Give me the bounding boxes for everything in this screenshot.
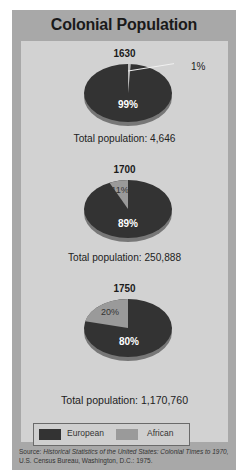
chart-panel: 1630 99% 1% Total population: 4,646 1700… bbox=[21, 41, 228, 442]
pie-chart-1750: 20% 80% bbox=[82, 296, 174, 362]
total-population-1630: Total population: 4,646 bbox=[29, 132, 219, 144]
legend-label-african: African bbox=[147, 428, 173, 438]
legend: European African bbox=[33, 423, 190, 446]
african-pct-1750: 20% bbox=[101, 307, 119, 317]
year-label-1630: 1630 bbox=[31, 47, 217, 59]
legend-swatch-african bbox=[116, 429, 138, 440]
european-pct-1630: 99% bbox=[118, 99, 138, 110]
african-pct-1700: 11% bbox=[111, 185, 128, 195]
year-label-1700: 1700 bbox=[31, 163, 217, 175]
european-pct-1700: 89% bbox=[118, 218, 138, 229]
chart-frame: Colonial Population 1630 99% 1% Total po… bbox=[12, 10, 236, 470]
source-note: Source: Historical Statistics of the Uni… bbox=[19, 448, 234, 465]
african-pct-1630: 1% bbox=[191, 61, 205, 72]
source-title: Historical Statistics of the United Stat… bbox=[43, 448, 228, 455]
total-population-1700: Total population: 250,888 bbox=[29, 251, 219, 263]
legend-swatch-european bbox=[39, 429, 61, 440]
chart-title: Colonial Population bbox=[12, 16, 236, 34]
source-rest: U.S. Census Bureau, Washington, D.C.: 19… bbox=[19, 457, 152, 464]
pie-chart-1630: 99% bbox=[82, 61, 174, 127]
legend-label-european: European bbox=[67, 428, 104, 438]
total-population-1750: Total population: 1,170,760 bbox=[29, 394, 219, 406]
european-pct-1750: 80% bbox=[119, 336, 139, 347]
source-prefix: Source: bbox=[19, 448, 43, 455]
pie-chart-1700: 11% 89% bbox=[82, 177, 174, 243]
year-label-1750: 1750 bbox=[31, 282, 217, 294]
